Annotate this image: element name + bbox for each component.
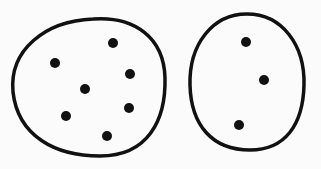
diagram [0,0,321,169]
dot [125,69,135,79]
dot [108,38,118,48]
dot [50,58,60,68]
dot [61,111,71,121]
dot [102,131,112,141]
dot [259,75,269,85]
right-loop [190,14,304,150]
dot [124,103,134,113]
dot [241,37,251,47]
dot [80,84,90,94]
dot [234,120,244,130]
